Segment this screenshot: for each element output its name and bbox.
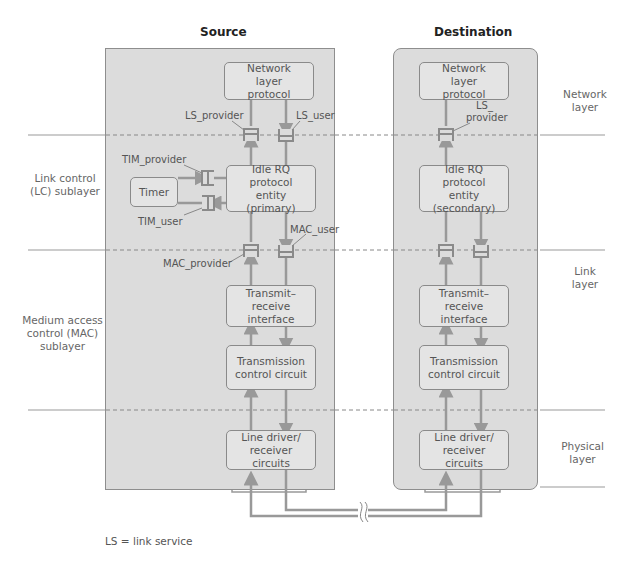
physical-layer-label: Physical layer xyxy=(555,440,610,466)
tim-user-label: TIM_user xyxy=(138,216,183,227)
source-idle-rq-box: Idle RQ protocol entity (primary) xyxy=(226,165,316,212)
destination-idle-rq-box: Idle RQ protocol entity (secondary) xyxy=(419,165,509,212)
lc-sublayer-label: Link control (LC) sublayer xyxy=(30,172,100,198)
destination-transmission-control-box: Transmission control circuit xyxy=(419,345,509,390)
connector-lines xyxy=(0,0,632,566)
mac-provider-label: MAC_provider xyxy=(163,258,232,269)
timer-box: Timer xyxy=(130,177,178,207)
destination-line-driver-box: Line driver/ receiver circuits xyxy=(419,430,509,470)
mac-user-label: MAC_user xyxy=(290,224,339,235)
destination-network-layer-box: Network layer protocol xyxy=(419,62,509,100)
source-transmit-receive-box: Transmit–receive interface xyxy=(226,285,316,327)
ls-provider-label: LS_provider xyxy=(185,110,244,121)
dest-ls-provider-label-line1: LS_ xyxy=(476,100,493,111)
ls-user-label: LS_user xyxy=(296,110,335,121)
tim-provider-label: TIM_provider xyxy=(122,154,186,165)
footnote: LS = link service xyxy=(105,535,193,548)
destination-transmit-receive-box: Transmit–receive interface xyxy=(419,285,509,327)
dest-ls-provider-label-line2: provider xyxy=(466,112,508,123)
mac-sublayer-label: Medium access control (MAC) sublayer xyxy=(20,314,105,353)
source-network-layer-box: Network layer protocol xyxy=(224,62,314,100)
link-layer-label: Link layer xyxy=(565,265,605,291)
source-line-driver-box: Line driver/ receiver circuits xyxy=(226,430,316,470)
source-transmission-control-box: Transmission control circuit xyxy=(226,345,316,390)
network-layer-label: Network layer xyxy=(560,88,610,114)
